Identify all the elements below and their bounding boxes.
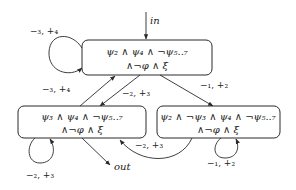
state-br-line1: ψ₂ ∧ ¬ψ₃ ∧ ψ₄ ∧ ¬ψ₅..₇ (160, 111, 276, 122)
edge-bottomleft-self-loop: −₂, +₃ (26, 138, 54, 180)
edge-bottomright-to-bottomleft: −₂, +₃ (120, 138, 192, 159)
state-top-line2: ∧¬φ ∧ ξ (126, 60, 168, 71)
edge-top-bl-label: −₂, +₃ (122, 88, 150, 98)
state-top: ψ₂ ∧ ψ₄ ∧ ¬ψ₅..₇ ∧¬φ ∧ ξ (82, 40, 212, 75)
edge-top-br-label: −₁, +₂ (200, 80, 228, 90)
state-diagram: in ψ₂ ∧ ψ₄ ∧ ¬ψ₅..₇ ∧¬φ ∧ ξ −₃, +₄ −₃, +… (0, 0, 296, 190)
state-br-line2: ∧¬φ ∧ ξ (197, 124, 239, 135)
exit-arrow: out (82, 138, 131, 172)
state-bottom-right: ψ₂ ∧ ¬ψ₃ ∧ ψ₄ ∧ ¬ψ₅..₇ ∧¬φ ∧ ξ (157, 106, 280, 138)
edge-top-to-bottomleft: −₂, +₃ (100, 75, 150, 106)
edge-br-bl-label: −₂, +₃ (135, 140, 163, 150)
edge-top-self-label: −₃, +₄ (30, 26, 58, 36)
edge-br-self-label: −₁, +₂ (207, 158, 235, 168)
exit-label: out (114, 161, 131, 172)
entry-arrow: in (146, 12, 160, 39)
state-bottom-left: ψ₃ ∧ ψ₄ ∧ ¬ψ₅..₇ ∧¬φ ∧ ξ (18, 106, 146, 138)
edge-top-to-bottomright: −₁, +₂ (160, 75, 228, 106)
edge-bottomleft-to-top: −₃, +₄ (42, 76, 115, 106)
state-bl-line2: ∧¬φ ∧ ξ (61, 124, 103, 135)
edge-top-self-loop: −₃, +₄ (30, 26, 82, 73)
edge-bottomright-self-loop: −₁, +₂ (207, 138, 238, 168)
state-bl-line1: ψ₃ ∧ ψ₄ ∧ ¬ψ₅..₇ (41, 111, 123, 122)
state-top-line1: ψ₂ ∧ ψ₄ ∧ ¬ψ₅..₇ (106, 46, 188, 57)
entry-label: in (150, 15, 160, 26)
edge-bl-top-label: −₃, +₄ (42, 84, 70, 94)
edge-bl-self-label: −₂, +₃ (26, 170, 54, 180)
